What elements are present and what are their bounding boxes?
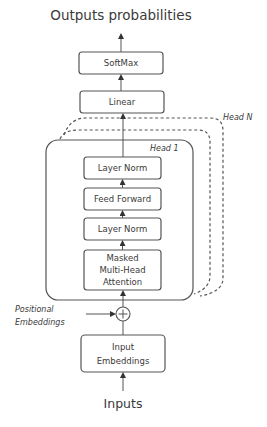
input-embeddings-label-line1: Input — [112, 342, 135, 352]
positional-embeddings-label-line2: Embeddings — [15, 318, 65, 327]
masked-mha-label-line1: Masked — [106, 253, 138, 263]
layer-norm-bottom-block: Layer Norm — [84, 218, 161, 240]
head-n-label: Head N — [223, 113, 252, 122]
layer-norm-top-block: Layer Norm — [84, 157, 161, 179]
positional-embeddings-label-line1: Positional — [15, 305, 54, 314]
softmax-label: SoftMax — [104, 58, 138, 68]
head-1-label: Head 1 — [150, 144, 179, 153]
masked-mha-label-line3: Attention — [103, 277, 142, 287]
linear-block: Linear — [80, 91, 164, 113]
decoder-architecture-diagram: Outputs probabilities SoftMax Linear Hea… — [0, 0, 267, 427]
feed-forward-label: Feed Forward — [94, 194, 151, 204]
input-embeddings-block: Input Embeddings — [81, 335, 165, 372]
masked-mha-label-line2: Multi-Head — [99, 265, 145, 275]
linear-label: Linear — [109, 97, 136, 107]
add-operation-icon — [116, 307, 130, 321]
inputs-label: Inputs — [104, 396, 143, 411]
layer-norm-bottom-label: Layer Norm — [98, 224, 148, 234]
masked-mha-block: Masked Multi-Head Attention — [84, 250, 161, 290]
output-title: Outputs probabilities — [50, 7, 191, 23]
softmax-block: SoftMax — [79, 52, 163, 74]
feed-forward-block: Feed Forward — [84, 188, 161, 210]
input-embeddings-label-line2: Embeddings — [97, 356, 150, 366]
layer-norm-top-label: Layer Norm — [98, 163, 148, 173]
